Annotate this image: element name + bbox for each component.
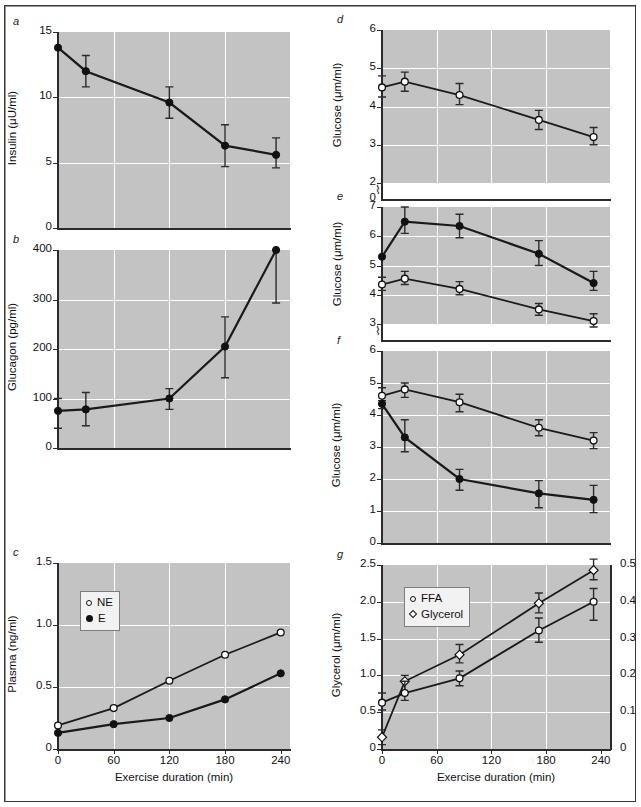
legend-marker bbox=[409, 610, 417, 618]
data-point-open-circle bbox=[456, 675, 463, 682]
data-point-open-diamond bbox=[455, 650, 464, 659]
series-layer-g bbox=[0, 0, 641, 807]
data-point-open-diamond bbox=[589, 566, 598, 575]
data-point-open-diamond bbox=[534, 599, 543, 608]
panel-g: g00.51.01.52.02.500.10.20.30.40.5Glycero… bbox=[0, 0, 641, 807]
data-point-open-circle bbox=[535, 627, 542, 634]
figure-root: a051015Insulin (μU/ml)b0100200300400Gluc… bbox=[0, 0, 641, 807]
legend-label: FFA bbox=[421, 591, 442, 607]
legend-label: Glycerol bbox=[421, 607, 463, 623]
legend-marker bbox=[410, 596, 416, 602]
data-point-open-circle bbox=[379, 699, 386, 706]
data-point-open-circle bbox=[590, 598, 597, 605]
legend-entry: Glycerol bbox=[410, 607, 463, 623]
legend-entry: FFA bbox=[410, 591, 463, 607]
legend-g: FFAGlycerol bbox=[404, 587, 470, 627]
data-point-open-circle bbox=[401, 690, 408, 697]
data-point-open-diamond bbox=[377, 733, 386, 742]
